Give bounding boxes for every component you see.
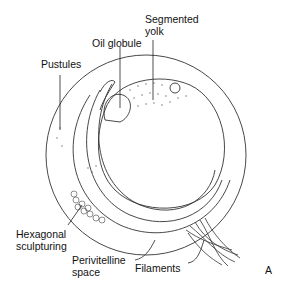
label-segmented-yolk: Segmented yolk bbox=[145, 13, 199, 37]
label-pustules: Pustules bbox=[41, 58, 81, 70]
label-filaments: Filaments bbox=[135, 262, 181, 274]
label-oil-globule: Oil globule bbox=[92, 37, 142, 49]
label-perivitelline-space: Perivitelline space bbox=[72, 254, 126, 278]
embryo-outer-arc bbox=[73, 95, 230, 233]
hexagonal-pattern bbox=[71, 191, 105, 223]
yolk-mass bbox=[98, 79, 224, 208]
label-hexagonal-sculpturing: Hexagonal sculpturing bbox=[16, 228, 67, 252]
filaments bbox=[186, 218, 240, 266]
egg-outer-membrane bbox=[46, 55, 246, 255]
oil-globule-shape bbox=[104, 94, 130, 122]
small-globule bbox=[170, 83, 180, 93]
embryo-inner-arc bbox=[87, 90, 222, 222]
panel-letter: A bbox=[265, 264, 272, 276]
